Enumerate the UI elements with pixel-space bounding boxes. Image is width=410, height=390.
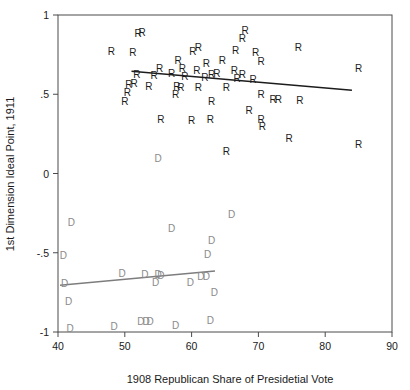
x-tick-label: 80 <box>319 340 331 352</box>
data-point-d: D <box>65 296 72 307</box>
x-tick-label: 60 <box>186 340 198 352</box>
data-point-d: D <box>228 209 235 220</box>
y-tick-label: .5 <box>40 88 49 100</box>
data-point-r: R <box>223 82 230 93</box>
data-point-r: R <box>172 89 179 100</box>
data-point-r: R <box>213 68 220 79</box>
data-point-r: R <box>195 82 202 93</box>
data-point-r: R <box>275 94 282 105</box>
data-point-r: R <box>257 89 264 100</box>
data-point-r: R <box>207 114 214 125</box>
x-axis-ticks: 405060708090 <box>52 332 398 352</box>
data-point-d: D <box>147 316 154 327</box>
data-point-r: R <box>208 96 215 107</box>
data-point-d: D <box>66 323 73 334</box>
x-tick-label: 90 <box>386 340 398 352</box>
data-point-d: D <box>119 268 126 279</box>
data-point-d: D <box>61 278 68 289</box>
data-point-d: D <box>211 287 218 298</box>
data-point-d: D <box>168 223 175 234</box>
data-point-r: R <box>129 47 136 58</box>
y-axis-ticks: -1-.50.51 <box>37 9 58 338</box>
data-point-d: D <box>155 153 162 164</box>
data-point-d: D <box>152 277 159 288</box>
y-tick-label: 1 <box>43 9 49 21</box>
data-point-r: R <box>121 96 128 107</box>
data-point-r: R <box>239 33 246 44</box>
data-point-d: D <box>68 217 75 228</box>
data-point-r: R <box>219 55 226 66</box>
data-point-r: R <box>232 45 239 56</box>
data-point-d: D <box>187 277 194 288</box>
data-point-r: R <box>108 46 115 57</box>
y-tick-label: -1 <box>40 326 49 338</box>
data-point-d: D <box>204 249 211 260</box>
data-point-d: D <box>208 235 215 246</box>
data-point-r: R <box>181 71 188 82</box>
data-point-d: D <box>110 321 117 332</box>
data-point-r: R <box>233 73 240 84</box>
data-points: RRRRRRRRRRRRRRRRRRRRRRRRRRRRRRRRRRRRRRRR… <box>60 25 362 334</box>
data-point-r: R <box>145 81 152 92</box>
data-point-r: R <box>245 105 252 116</box>
x-axis-label: 1908 Republican Share of Presidetial Vot… <box>127 373 334 385</box>
data-point-r: R <box>189 46 196 57</box>
x-tick-label: 70 <box>253 340 265 352</box>
data-point-r: R <box>257 56 264 67</box>
y-tick-label: 0 <box>43 168 49 180</box>
y-axis-label: 1st Dimension Ideal Point, 1911 <box>4 97 16 252</box>
data-point-d: D <box>203 271 210 282</box>
data-point-d: D <box>60 250 67 261</box>
data-point-r: R <box>296 95 303 106</box>
data-point-r: R <box>259 121 266 132</box>
x-tick-label: 40 <box>52 340 64 352</box>
data-point-r: R <box>355 63 362 74</box>
data-point-d: D <box>207 315 214 326</box>
data-point-r: R <box>151 70 158 81</box>
data-point-d: D <box>141 269 148 280</box>
data-point-r: R <box>295 42 302 53</box>
data-point-r: R <box>203 58 210 69</box>
data-point-r: R <box>193 65 200 76</box>
data-point-r: R <box>131 78 138 89</box>
data-point-r: R <box>249 74 256 85</box>
data-point-d: D <box>172 320 179 331</box>
x-tick-label: 50 <box>119 340 131 352</box>
data-point-r: R <box>286 133 293 144</box>
data-point-r: R <box>223 146 230 157</box>
data-point-r: R <box>157 114 164 125</box>
data-point-r: R <box>201 72 208 83</box>
data-point-r: R <box>188 115 195 126</box>
data-point-r: R <box>355 139 362 150</box>
data-point-r: R <box>139 27 146 38</box>
plot-canvas: 405060708090 -1-.50.51 RRRRRRRRRRRRRRRRR… <box>0 0 410 390</box>
y-tick-label: -.5 <box>37 247 49 259</box>
data-point-r: R <box>168 68 175 79</box>
scatter-plot-figure: 405060708090 -1-.50.51 RRRRRRRRRRRRRRRRR… <box>0 0 410 390</box>
